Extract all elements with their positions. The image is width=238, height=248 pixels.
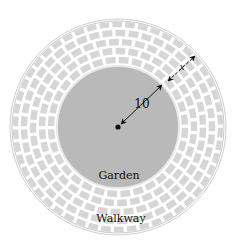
garden-label: Garden	[98, 169, 139, 182]
garden-walkway-diagram: 10 x Garden Walkway	[0, 0, 238, 248]
walkway-label: Walkway	[96, 212, 146, 225]
center-dot	[115, 124, 120, 129]
width-label: x	[179, 62, 184, 72]
radius-label: 10	[134, 97, 149, 111]
